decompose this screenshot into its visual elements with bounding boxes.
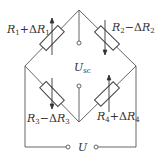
label-usc: Usc bbox=[74, 62, 91, 75]
label-u: U bbox=[78, 142, 87, 153]
arrowhead-r2-icon bbox=[103, 50, 107, 55]
wire-supply-left bbox=[25, 66, 66, 147]
wire-supply-right bbox=[98, 66, 136, 147]
arrowhead-r3-icon bbox=[50, 104, 54, 109]
arrowhead-r1-icon bbox=[50, 18, 54, 23]
label-r1: R1+ΔR1 bbox=[7, 24, 50, 37]
arrowhead-r4-icon bbox=[107, 75, 111, 80]
terminal-usc-top bbox=[77, 41, 81, 45]
label-r3: R3−ΔR3 bbox=[27, 113, 70, 126]
terminal-u-right bbox=[94, 145, 98, 149]
label-r4: R4+ΔR4 bbox=[97, 111, 140, 124]
resistor-r4 bbox=[95, 82, 120, 107]
terminal-u-left bbox=[66, 145, 70, 149]
label-r2: R2−ΔR2 bbox=[112, 22, 155, 35]
terminal-usc-bottom bbox=[77, 84, 81, 88]
